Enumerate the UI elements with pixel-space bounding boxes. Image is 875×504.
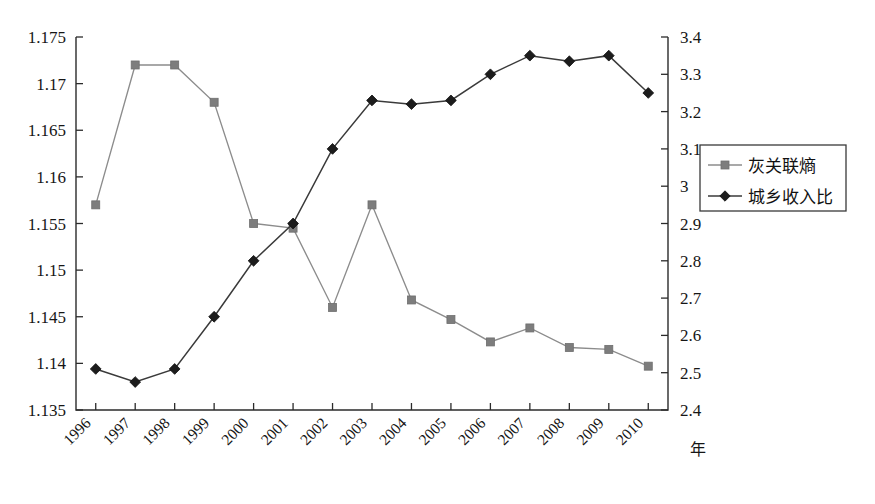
chart-figure: 1.1351.141.1451.151.1551.161.1651.171.17… bbox=[0, 0, 875, 504]
x-tick-label: 2005 bbox=[415, 414, 449, 448]
data-point-marker bbox=[447, 316, 455, 324]
x-tick-label: 2004 bbox=[376, 414, 410, 448]
data-point-marker bbox=[644, 362, 652, 370]
x-tick-label: 2008 bbox=[534, 414, 568, 448]
left-axis-ticks: 1.1351.141.1451.151.1551.161.1651.171.17… bbox=[28, 28, 83, 420]
left-tick-label: 1.135 bbox=[28, 401, 66, 420]
left-tick-label: 1.165 bbox=[28, 121, 66, 140]
right-tick-label: 2.6 bbox=[680, 326, 701, 345]
x-tick-label: 1998 bbox=[139, 414, 173, 448]
left-tick-label: 1.15 bbox=[36, 261, 66, 280]
data-point-marker bbox=[368, 201, 376, 209]
right-tick-label: 3 bbox=[680, 177, 689, 196]
x-axis-title: 年 bbox=[690, 441, 706, 458]
x-tick-label: 2000 bbox=[218, 414, 252, 448]
legend-label: 灰关联熵 bbox=[748, 157, 816, 176]
series-line-1 bbox=[96, 65, 649, 366]
x-tick-label: 2003 bbox=[336, 414, 370, 448]
data-point-marker bbox=[210, 98, 218, 106]
right-tick-label: 3.2 bbox=[680, 103, 701, 122]
left-tick-label: 1.145 bbox=[28, 308, 66, 327]
left-tick-label: 1.16 bbox=[36, 168, 66, 187]
data-point-marker bbox=[406, 99, 417, 110]
data-point-marker bbox=[486, 338, 494, 346]
x-tick-label: 2010 bbox=[612, 414, 646, 448]
left-tick-label: 1.17 bbox=[36, 75, 66, 94]
right-tick-label: 2.5 bbox=[680, 364, 701, 383]
right-tick-label: 3.4 bbox=[680, 28, 702, 47]
x-tick-label: 2009 bbox=[573, 414, 607, 448]
data-point-marker bbox=[131, 61, 139, 69]
right-axis-ticks: 2.42.52.62.72.82.933.13.23.33.4 bbox=[661, 28, 702, 420]
left-tick-label: 1.155 bbox=[28, 215, 66, 234]
right-tick-label: 2.7 bbox=[680, 289, 702, 308]
data-point-marker bbox=[605, 345, 613, 353]
plot-border bbox=[76, 37, 668, 410]
series-layer bbox=[90, 50, 653, 387]
right-tick-label: 2.9 bbox=[680, 215, 701, 234]
right-tick-label: 3.3 bbox=[680, 65, 701, 84]
data-point-marker bbox=[329, 303, 337, 311]
chart-legend: 灰关联熵城乡收入比 bbox=[700, 145, 846, 211]
x-tick-label: 1999 bbox=[178, 414, 212, 448]
data-point-marker bbox=[446, 95, 457, 106]
right-tick-label: 2.4 bbox=[680, 401, 702, 420]
x-tick-label: 1997 bbox=[99, 414, 133, 448]
data-point-marker bbox=[564, 56, 575, 67]
data-point-marker bbox=[250, 220, 258, 228]
data-point-marker bbox=[90, 364, 101, 375]
data-point-marker bbox=[407, 296, 415, 304]
x-tick-label: 2002 bbox=[297, 414, 331, 448]
data-point-marker bbox=[130, 377, 141, 388]
x-tick-label: 2001 bbox=[257, 414, 291, 448]
data-point-marker bbox=[171, 61, 179, 69]
legend-square-icon bbox=[721, 161, 729, 169]
left-tick-label: 1.14 bbox=[36, 354, 66, 373]
left-tick-label: 1.175 bbox=[28, 28, 66, 47]
data-point-marker bbox=[92, 201, 100, 209]
plot-frame bbox=[76, 37, 668, 410]
legend-label: 城乡收入比 bbox=[748, 188, 833, 207]
x-tick-label: 2006 bbox=[455, 414, 489, 448]
right-tick-label: 3.1 bbox=[680, 140, 701, 159]
data-point-marker bbox=[565, 344, 573, 352]
x-tick-label: 2007 bbox=[494, 414, 528, 448]
data-point-marker bbox=[485, 69, 496, 80]
data-point-marker bbox=[524, 50, 535, 61]
data-point-marker bbox=[526, 324, 534, 332]
dual-axis-line-chart: 1.1351.141.1451.151.1551.161.1651.171.17… bbox=[0, 0, 875, 504]
right-tick-label: 2.8 bbox=[680, 252, 701, 271]
